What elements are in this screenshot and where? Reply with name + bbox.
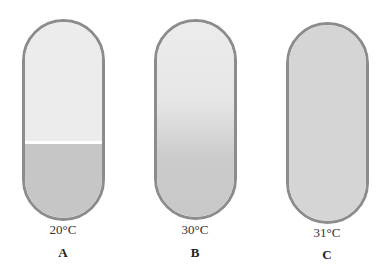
tube-b [154,19,237,220]
tube-b-letter: B [180,245,210,261]
tube-a-upper-layer [25,22,102,141]
tube-c [286,22,369,224]
tube-c-temperature: 31°C [297,225,357,241]
tube-b-temperature: 30°C [165,222,225,238]
tube-a-temperature: 20°C [33,222,93,238]
tube-a-letter: A [48,245,78,261]
tube-a [22,19,105,221]
tube-a-lower-layer [25,144,102,218]
tube-b-gradient [157,22,234,217]
tube-c-mixed [289,25,366,221]
tube-c-letter: C [312,247,342,263]
